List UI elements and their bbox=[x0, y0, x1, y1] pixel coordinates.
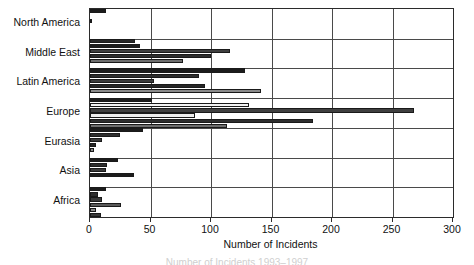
bar bbox=[90, 79, 154, 83]
figure-caption: Number of Incidents 1993–1997 bbox=[0, 257, 474, 265]
category-label: Asia bbox=[60, 165, 80, 176]
bar bbox=[90, 158, 118, 162]
bar bbox=[90, 143, 96, 147]
bar bbox=[90, 89, 261, 93]
category-axis-labels: North AmericaMiddle EastLatin AmericaEur… bbox=[0, 8, 84, 216]
bar bbox=[90, 187, 106, 191]
bar bbox=[90, 133, 120, 137]
x-axis-tick-label: 0 bbox=[86, 223, 92, 235]
bar bbox=[90, 9, 106, 13]
bar bbox=[90, 108, 414, 112]
gridline-horizontal bbox=[90, 39, 453, 40]
plot-inner bbox=[90, 9, 453, 217]
gridline-horizontal bbox=[90, 187, 453, 188]
x-axis-tick-label: 250 bbox=[383, 223, 401, 235]
plot-area bbox=[89, 8, 454, 218]
bar bbox=[90, 54, 211, 58]
bar bbox=[90, 49, 230, 53]
bar bbox=[90, 119, 313, 123]
bar bbox=[90, 148, 94, 152]
category-label: Africa bbox=[53, 195, 80, 206]
bar bbox=[90, 44, 140, 48]
bar bbox=[90, 98, 152, 102]
bar bbox=[90, 128, 143, 132]
bar bbox=[90, 84, 205, 88]
gridline-horizontal bbox=[90, 158, 453, 159]
gridline-vertical bbox=[211, 9, 212, 217]
x-axis-tick-label: 300 bbox=[443, 223, 461, 235]
bar bbox=[90, 59, 183, 63]
x-axis-tick bbox=[452, 217, 453, 222]
x-axis-tick-label: 50 bbox=[144, 223, 156, 235]
x-axis-title: Number of Incidents bbox=[89, 238, 452, 250]
bar bbox=[90, 74, 199, 78]
gridline-vertical bbox=[332, 9, 333, 217]
gridline-vertical bbox=[272, 9, 273, 217]
bar bbox=[90, 173, 134, 177]
x-axis-tick bbox=[331, 217, 332, 222]
x-axis-tick bbox=[392, 217, 393, 222]
bar bbox=[90, 197, 102, 201]
x-axis-tick bbox=[210, 217, 211, 222]
x-axis-tick-label: 200 bbox=[322, 223, 340, 235]
category-label: North America bbox=[13, 17, 80, 28]
x-axis-tick bbox=[150, 217, 151, 222]
bar bbox=[90, 19, 92, 23]
bar bbox=[90, 103, 249, 107]
bar bbox=[90, 192, 98, 196]
x-axis-tick-label: 100 bbox=[201, 223, 219, 235]
gridline-horizontal bbox=[90, 128, 453, 129]
category-label: Europe bbox=[46, 106, 80, 117]
gridline-vertical bbox=[393, 9, 394, 217]
x-axis-tick bbox=[89, 217, 90, 222]
x-axis-tick bbox=[271, 217, 272, 222]
bar bbox=[90, 168, 106, 172]
chart-figure: North AmericaMiddle EastLatin AmericaEur… bbox=[0, 0, 474, 265]
bar bbox=[90, 138, 102, 142]
category-label: Middle East bbox=[25, 47, 80, 58]
bar bbox=[90, 208, 96, 212]
bar bbox=[90, 68, 245, 72]
bar bbox=[90, 39, 135, 43]
category-label: Latin America bbox=[16, 76, 80, 87]
bar bbox=[90, 113, 195, 117]
x-axis-tick-label: 150 bbox=[262, 223, 280, 235]
bar bbox=[90, 163, 107, 167]
category-label: Eurasia bbox=[44, 136, 80, 147]
bar bbox=[90, 213, 101, 217]
bar bbox=[90, 203, 121, 207]
